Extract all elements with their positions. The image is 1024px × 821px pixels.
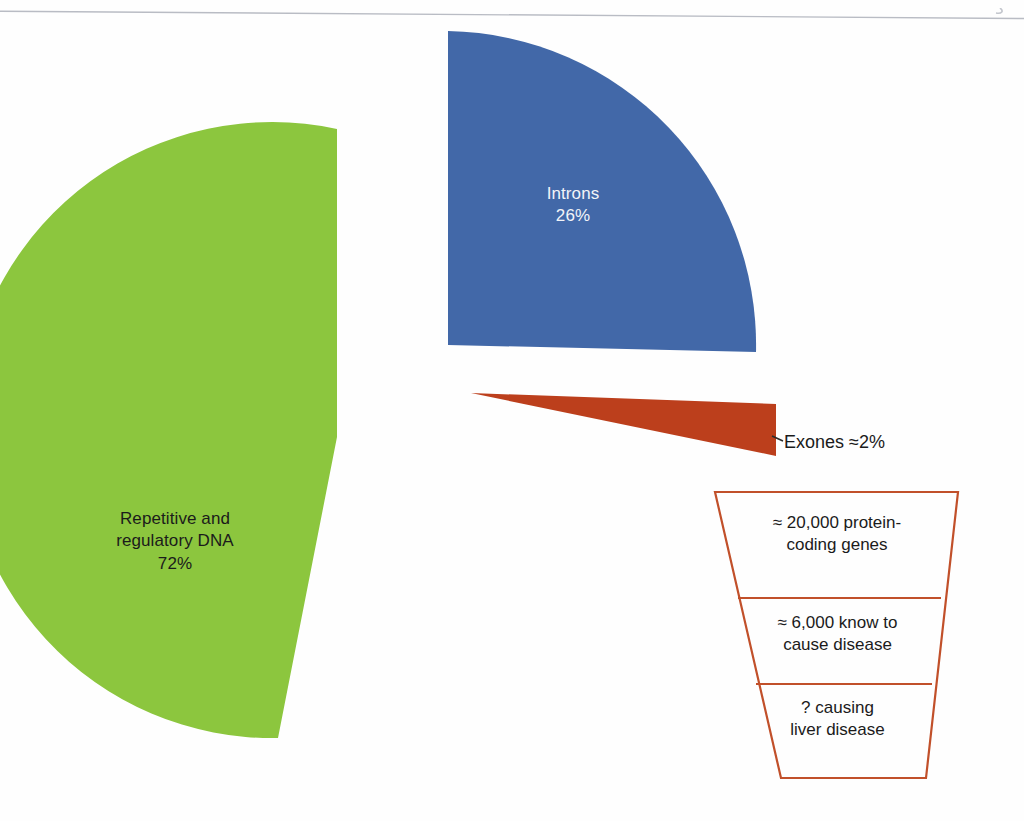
pie-label-repetitive-and-regulatory-dna: Repetitive and regulatory DNA 72% — [60, 508, 290, 575]
pie-label-introns: Introns 26% — [498, 183, 648, 228]
pie-chart — [0, 31, 783, 738]
funnel-row-label-causing-liver-disease: ? causing liver disease — [748, 697, 927, 741]
funnel-row-label-known-to-cause-disease: ≈ 6,000 know to cause disease — [736, 612, 939, 656]
pie-slice-exons[interactable] — [471, 393, 776, 456]
figure-page: Introns 26% Repetitive and regulatory DN… — [0, 0, 1024, 821]
pie-label-exons: Exones ≈2% — [784, 432, 885, 453]
funnel-row-label-protein-coding-genes: ≈ 20,000 protein- coding genes — [722, 512, 952, 556]
pie-slice-repetitive-and-regulatory-dna[interactable] — [0, 122, 337, 738]
